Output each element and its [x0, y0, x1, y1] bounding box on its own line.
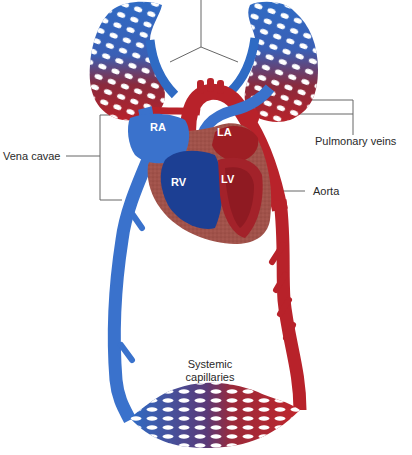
- label-left-atrium: LA: [217, 126, 232, 139]
- label-vena-cavae: Vena cavae: [3, 150, 61, 163]
- label-right-atrium: RA: [150, 121, 166, 134]
- label-systemic-line1: Systemic: [180, 358, 240, 371]
- diagram-graphic: [0, 0, 412, 455]
- label-left-ventricle: LV: [221, 173, 234, 186]
- left-lung-capillaries: [90, 2, 175, 121]
- label-right-ventricle: RV: [171, 176, 186, 189]
- label-aorta: Aorta: [313, 185, 339, 198]
- systemic-capillary-bed: [130, 383, 300, 448]
- label-pulmonary-veins: Pulmonary veins: [315, 135, 396, 148]
- label-systemic-line2: capillaries: [180, 371, 240, 384]
- circulatory-diagram: RA LA RV LV Vena cavae Pulmonary veins A…: [0, 0, 412, 455]
- vena-cava-vessel: [114, 155, 150, 420]
- label-systemic-capillaries: Systemic capillaries: [180, 358, 240, 384]
